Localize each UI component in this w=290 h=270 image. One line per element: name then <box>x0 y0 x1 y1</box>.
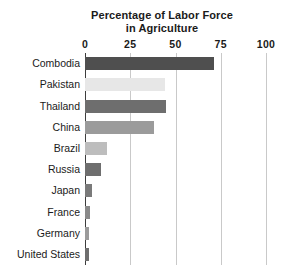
category-labels: CombodiaPakistanThailandChinaBrazilRussi… <box>0 53 80 265</box>
category-label-brazil: Brazil <box>0 142 80 155</box>
category-label-thailand: Thailand <box>0 100 80 113</box>
category-label-pakistan: Pakistan <box>0 78 80 91</box>
plot-area <box>85 53 266 265</box>
x-tick-label-25: 25 <box>124 38 136 50</box>
gridline-100 <box>266 53 267 265</box>
bars-layer <box>85 53 266 265</box>
category-label-france: France <box>0 206 80 219</box>
bar-united-states <box>85 248 89 261</box>
chart-title-line-2: in Agriculture <box>62 22 262 35</box>
bar-chart: Percentage of Labor Force in Agriculture… <box>0 0 290 270</box>
x-tick-label-50: 50 <box>169 38 181 50</box>
bar-germany <box>85 227 89 240</box>
category-label-germany: Germany <box>0 227 80 240</box>
x-axis-tick-labels: 0255075100 <box>0 38 290 52</box>
bar-china <box>85 121 154 134</box>
x-tick-label-0: 0 <box>82 38 88 50</box>
bar-thailand <box>85 100 166 113</box>
x-tick-label-100: 100 <box>257 38 275 50</box>
bar-russia <box>85 163 101 176</box>
chart-title-line-1: Percentage of Labor Force <box>62 9 262 22</box>
category-label-japan: Japan <box>0 184 80 197</box>
category-label-china: China <box>0 121 80 134</box>
bar-pakistan <box>85 78 165 91</box>
bar-combodia <box>85 57 214 70</box>
bar-japan <box>85 184 92 197</box>
bar-france <box>85 206 90 219</box>
bar-brazil <box>85 142 107 155</box>
category-label-russia: Russia <box>0 163 80 176</box>
x-tick-label-75: 75 <box>215 38 227 50</box>
category-label-united-states: United States <box>0 248 80 261</box>
chart-title: Percentage of Labor Force in Agriculture <box>62 9 262 35</box>
category-label-combodia: Combodia <box>0 57 80 70</box>
